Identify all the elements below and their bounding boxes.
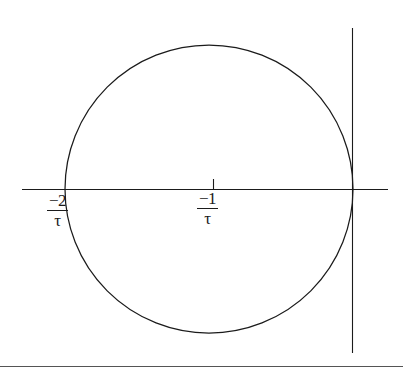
label-left-intercept: −2 τ bbox=[47, 192, 68, 229]
figure-container: −2 τ −1 τ bbox=[0, 0, 403, 373]
circle-diagram-svg bbox=[0, 0, 403, 373]
label-center-point-numerator: −1 bbox=[197, 190, 218, 209]
label-center-point-denominator: τ bbox=[197, 209, 218, 227]
label-center-point: −1 τ bbox=[197, 190, 218, 227]
label-left-intercept-numerator: −2 bbox=[47, 192, 68, 211]
label-left-intercept-denominator: τ bbox=[47, 211, 68, 229]
